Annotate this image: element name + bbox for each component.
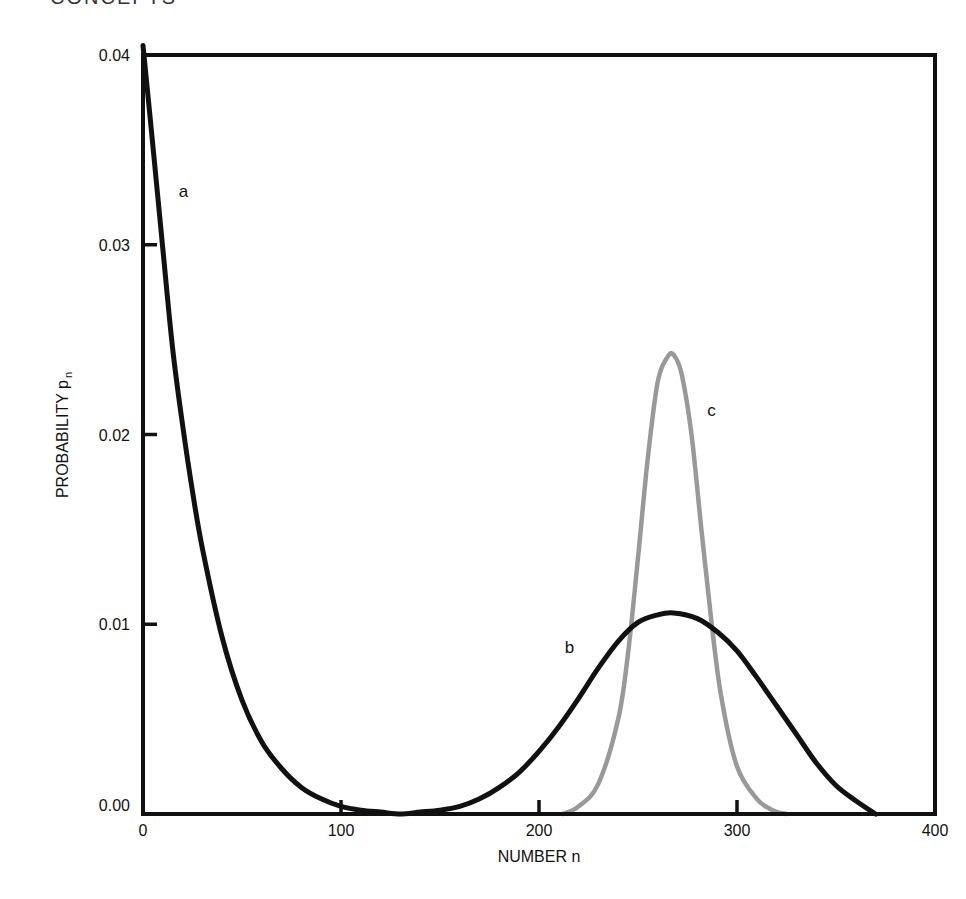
y-tick-label: 0.00 [99, 797, 130, 814]
y-tick-label: 0.02 [99, 427, 130, 444]
x-tick-label: 0 [139, 822, 148, 839]
curve-a [143, 46, 876, 815]
y-tick-label: 0.04 [99, 47, 130, 64]
axis-ticks: 01002003004000.000.010.020.030.04 [99, 47, 949, 839]
probability-distribution-chart: 01002003004000.000.010.020.030.04 NUMBER… [0, 0, 966, 899]
axis-labels: NUMBER n PROBABILITY pn [54, 372, 580, 865]
plot-frame [143, 55, 935, 814]
x-tick-label: 400 [922, 822, 949, 839]
x-tick-label: 100 [328, 822, 355, 839]
y-axis-title: PROBABILITY pn [54, 372, 74, 498]
x-tick-label: 200 [526, 822, 553, 839]
x-tick-label: 300 [724, 822, 751, 839]
y-tick-label: 0.01 [99, 616, 130, 633]
curves-layer [143, 46, 876, 815]
curve-c [563, 353, 787, 814]
curve-label-c: c [707, 401, 716, 420]
x-axis-title: NUMBER n [498, 848, 581, 865]
curve-label-b: b [565, 638, 574, 657]
curve-label-a: a [179, 182, 189, 201]
y-tick-label: 0.03 [99, 237, 130, 254]
